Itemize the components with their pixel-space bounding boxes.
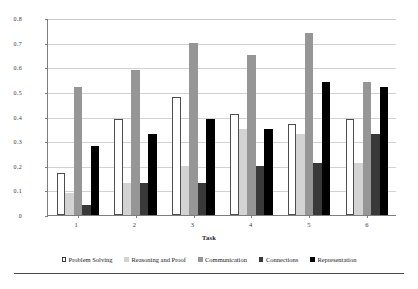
bar-group-5 bbox=[280, 19, 338, 215]
bar-group-4 bbox=[222, 19, 280, 215]
y-tick-label: 0.5 bbox=[0, 89, 22, 95]
y-tick-label: 0.2 bbox=[0, 163, 22, 169]
bar-group-1 bbox=[49, 19, 107, 215]
x-tick-label-4: 4 bbox=[236, 221, 266, 228]
bottom-divider bbox=[14, 273, 404, 274]
bar-group-3 bbox=[165, 19, 223, 215]
bar bbox=[354, 163, 363, 215]
y-tick-mark bbox=[45, 142, 48, 143]
legend-swatch-icon bbox=[310, 257, 315, 262]
x-tick-mark bbox=[194, 215, 195, 218]
legend-swatch-icon bbox=[259, 257, 264, 262]
bar bbox=[82, 205, 91, 215]
legend-item-representation[interactable]: Representation bbox=[310, 256, 356, 263]
x-tick-label-5: 5 bbox=[294, 221, 324, 228]
y-tick-mark bbox=[45, 191, 48, 192]
bar-group-2 bbox=[107, 19, 165, 215]
bar bbox=[65, 193, 74, 215]
y-tick-mark bbox=[45, 167, 48, 168]
bar bbox=[123, 183, 132, 215]
bar bbox=[91, 146, 100, 215]
x-tick-mark bbox=[251, 215, 252, 218]
bar bbox=[380, 87, 389, 215]
bar bbox=[140, 183, 149, 215]
x-tick-label-1: 1 bbox=[61, 221, 91, 228]
bar bbox=[172, 97, 181, 215]
legend-item-reasoning-and-proof[interactable]: Reasoning and Proof bbox=[124, 256, 186, 263]
chart-legend: Problem SolvingReasoning and ProofCommun… bbox=[0, 256, 418, 263]
y-tick-label: 0.8 bbox=[0, 16, 22, 22]
bar bbox=[198, 183, 207, 215]
bar bbox=[322, 82, 331, 215]
bar bbox=[264, 129, 273, 215]
bar bbox=[114, 119, 123, 215]
legend-item-communication[interactable]: Communication bbox=[198, 256, 247, 263]
y-tick-mark bbox=[45, 19, 48, 20]
plot-area: 00.10.20.30.40.50.60.70.8 bbox=[47, 19, 396, 216]
bar bbox=[206, 119, 215, 215]
bar-groups bbox=[49, 19, 396, 215]
bar bbox=[305, 33, 314, 215]
x-tick-mark bbox=[309, 215, 310, 218]
bar bbox=[247, 55, 256, 215]
legend-swatch-icon bbox=[198, 257, 203, 262]
y-tick-label: 0.1 bbox=[0, 188, 22, 194]
y-tick-label: 0.6 bbox=[0, 65, 22, 71]
bar bbox=[189, 43, 198, 215]
bar bbox=[363, 82, 372, 215]
y-tick-mark bbox=[45, 68, 48, 69]
bar bbox=[74, 87, 83, 215]
x-tick-label-2: 2 bbox=[119, 221, 149, 228]
x-tick-mark bbox=[78, 215, 79, 218]
bar bbox=[57, 173, 66, 215]
bar bbox=[371, 134, 380, 215]
legend-label: Reasoning and Proof bbox=[131, 256, 186, 263]
legend-item-problem-solving[interactable]: Problem Solving bbox=[62, 256, 113, 263]
bar bbox=[256, 166, 265, 215]
bar bbox=[288, 124, 297, 215]
bar-group-6 bbox=[338, 19, 396, 215]
y-tick-label: 0.7 bbox=[0, 40, 22, 46]
x-tick-label-3: 3 bbox=[177, 221, 207, 228]
bar bbox=[181, 166, 190, 215]
legend-label: Problem Solving bbox=[69, 256, 113, 263]
bar bbox=[296, 134, 305, 215]
x-axis-label: Task bbox=[0, 234, 418, 241]
chart-figure: 00.10.20.30.40.50.60.70.8 Percentage Eli… bbox=[0, 0, 418, 289]
y-tick-mark bbox=[45, 118, 48, 119]
bar bbox=[230, 114, 239, 215]
legend-item-connections[interactable]: Connections bbox=[259, 256, 299, 263]
bar bbox=[148, 134, 157, 215]
y-tick-mark bbox=[45, 93, 48, 94]
legend-swatch-icon bbox=[62, 257, 67, 262]
legend-label: Connections bbox=[266, 256, 299, 263]
x-tick-label-6: 6 bbox=[352, 221, 382, 228]
y-tick-label: 0.3 bbox=[0, 139, 22, 145]
legend-label: Representation bbox=[317, 256, 356, 263]
bar bbox=[346, 119, 355, 215]
bar bbox=[131, 70, 140, 215]
x-tick-mark bbox=[367, 215, 368, 218]
y-tick-label: 0 bbox=[0, 213, 22, 219]
y-tick-mark bbox=[45, 44, 48, 45]
bar bbox=[239, 129, 248, 215]
y-tick-label: 0.4 bbox=[0, 114, 22, 120]
legend-swatch-icon bbox=[124, 257, 129, 262]
y-tick-mark bbox=[45, 216, 48, 217]
bar bbox=[313, 163, 322, 215]
legend-label: Communication bbox=[205, 256, 247, 263]
x-tick-mark bbox=[136, 215, 137, 218]
